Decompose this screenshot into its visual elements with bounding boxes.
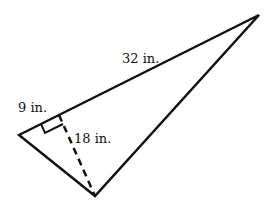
label-short-segment: 9 in. <box>18 100 47 115</box>
right-angle-marker <box>41 124 63 133</box>
altitude-dashed-line <box>59 115 95 196</box>
label-long-side: 32 in. <box>122 51 159 66</box>
triangle <box>19 15 259 196</box>
label-altitude: 18 in. <box>74 131 111 146</box>
